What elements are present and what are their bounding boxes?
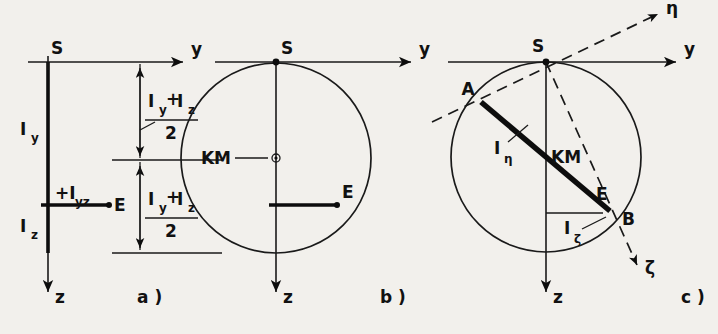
svg-text:yz: yz: [75, 195, 90, 209]
panel-a-y-axis-label: y: [191, 39, 202, 59]
svg-text:ζ: ζ: [574, 232, 581, 246]
panel-c-z-axis-label: z: [553, 287, 563, 307]
panel-a-caption: a ): [137, 287, 162, 307]
panel-c-point-km-label: KM: [551, 147, 581, 167]
svg-text:I: I: [148, 189, 154, 209]
panel-a-label-Iz: I z: [20, 216, 38, 242]
svg-text:z: z: [31, 228, 38, 242]
panel-c-point-a-label: A: [461, 79, 475, 99]
panel-a-point-e-dot: [106, 202, 112, 208]
svg-text:I: I: [20, 119, 26, 139]
panel-b-caption: b ): [380, 287, 406, 307]
svg-text:I: I: [20, 216, 26, 236]
panel-b-point-s-dot: [273, 59, 280, 66]
panel-b-point-e-dot: [334, 202, 340, 208]
panel-b-y-axis-label: y: [419, 39, 430, 59]
panel-c-point-b-label: B: [622, 209, 635, 229]
panel-a-z-axis-label: z: [55, 287, 65, 307]
mohr-circle-figure: y z S I y I z E: [0, 0, 718, 334]
panel-b-point-km-dot: [274, 156, 277, 159]
svg-text:I: I: [177, 189, 183, 209]
panel-b-z-axis-label: z: [283, 287, 293, 307]
svg-text:I: I: [564, 218, 570, 238]
panel-c-label-I-eta: I η: [494, 125, 528, 166]
panel-a-dim-lower-label: I y + I z 2: [145, 187, 198, 241]
panel-b: y z S KM E b ): [181, 38, 430, 307]
panel-a-dim-upper-leader: [140, 122, 155, 130]
svg-text:I: I: [148, 91, 154, 111]
panel-b-point-e-label: E: [342, 182, 354, 202]
panel-a: y z S I y I z E: [20, 38, 222, 307]
panel-c-point-s-label: S: [532, 36, 544, 56]
panel-c-point-e-label: E: [596, 184, 608, 204]
panel-a-label-Iy: I y: [20, 119, 39, 145]
svg-text:y: y: [31, 131, 39, 145]
svg-text:I: I: [177, 91, 183, 111]
panel-c-caption: c ): [681, 287, 705, 307]
svg-text:2: 2: [165, 221, 177, 241]
panel-c-zeta-axis-label: ζ: [645, 258, 655, 278]
panel-c-eta-axis-label: η: [666, 0, 678, 18]
diagram-canvas: y z S I y I z E: [0, 0, 718, 334]
svg-text:+I: +I: [55, 183, 76, 203]
panel-c-label-I-zeta: I ζ: [564, 217, 606, 246]
panel-a-point-e-label: E: [114, 195, 126, 215]
panel-c-y-axis-label: y: [684, 39, 695, 59]
panel-b-point-km-label: KM: [201, 148, 231, 168]
panel-c: y z η ζ S A B E KM I: [432, 0, 705, 307]
panel-b-point-s-label: S: [281, 38, 293, 58]
svg-text:I: I: [494, 138, 500, 158]
panel-c-point-s-dot: [543, 59, 550, 66]
svg-text:2: 2: [165, 123, 177, 143]
svg-text:η: η: [504, 152, 513, 166]
panel-c-label-I-zeta-leader: [582, 217, 606, 229]
panel-c-eta-axis: [432, 14, 658, 122]
panel-a-point-s-label: S: [51, 38, 63, 58]
